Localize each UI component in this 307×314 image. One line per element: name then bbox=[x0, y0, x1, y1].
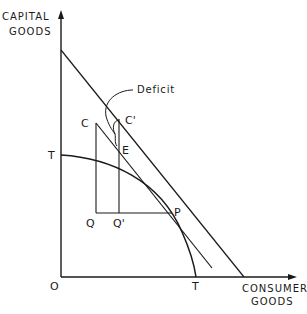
y-axis-label-line2: GOODS bbox=[9, 26, 52, 37]
point-label-c-prime: C' bbox=[125, 114, 136, 127]
y-axis-label-line1: CAPITAL bbox=[2, 11, 50, 22]
x-axis-label-line1: CONSUMER bbox=[242, 283, 307, 294]
inner-price-line bbox=[96, 123, 212, 268]
trade-diagram: CAPITAL GOODS CONSUMER GOODS O T T C C' … bbox=[0, 0, 307, 314]
point-label-q-prime: Q' bbox=[113, 217, 125, 230]
x-axis-arrow-icon bbox=[288, 274, 297, 280]
point-label-t-y: T bbox=[47, 149, 55, 162]
origin-label: O bbox=[50, 280, 59, 293]
x-axis-label-line2: GOODS bbox=[251, 296, 294, 307]
point-label-e: E bbox=[122, 144, 129, 157]
y-axis-arrow-icon bbox=[58, 10, 64, 19]
point-label-c: C bbox=[81, 117, 89, 130]
point-label-q: Q bbox=[86, 217, 95, 230]
point-label-p: P bbox=[174, 206, 181, 219]
point-label-t-x: T bbox=[191, 280, 199, 293]
deficit-label: Deficit bbox=[137, 84, 175, 95]
